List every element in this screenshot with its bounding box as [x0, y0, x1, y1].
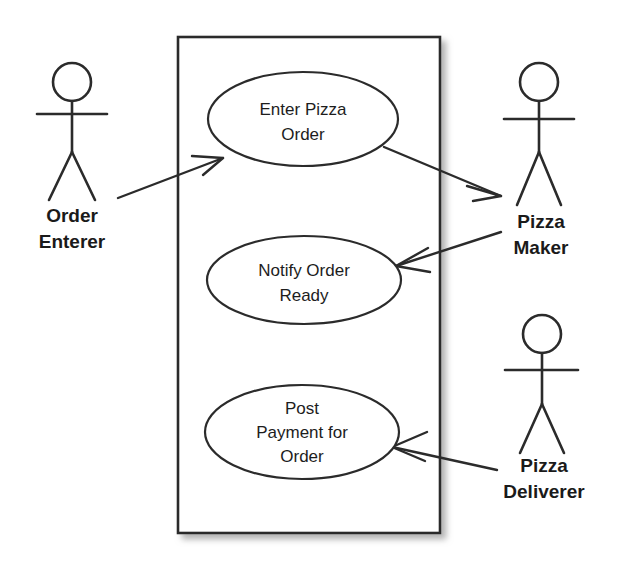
- actor-label-line-1: Pizza: [520, 455, 568, 476]
- actor-left-leg-line: [517, 152, 539, 205]
- actor-right-leg-line: [72, 152, 95, 200]
- use-case-label-line-1: Enter Pizza: [260, 100, 347, 119]
- actor-order-enterer[interactable]: Order Enterer: [37, 63, 107, 252]
- actor-left-leg-line: [49, 152, 72, 200]
- actor-label-line-2: Maker: [514, 237, 570, 258]
- use-case-label-line-2: Payment for: [256, 423, 348, 442]
- use-case-notify-order-ready[interactable]: Notify Order Ready: [207, 236, 401, 324]
- actor-pizza-deliverer[interactable]: Pizza Deliverer: [503, 315, 585, 502]
- use-case-diagram: Order Enterer Pizza Maker Pizza Delivere…: [0, 0, 617, 574]
- use-case-label-line-1: Notify Order: [258, 261, 350, 280]
- uml-canvas: Order Enterer Pizza Maker Pizza Delivere…: [0, 0, 617, 574]
- actor-left-leg-line: [520, 404, 542, 453]
- actor-head-icon: [520, 63, 558, 101]
- use-case-enter-pizza-order[interactable]: Enter Pizza Order: [208, 72, 398, 166]
- use-case-post-payment-for-order[interactable]: Post Payment for Order: [205, 385, 399, 479]
- actor-label-line-2: Deliverer: [503, 481, 585, 502]
- actor-right-leg-line: [539, 152, 561, 205]
- actor-right-leg-line: [542, 404, 564, 453]
- actor-head-icon: [523, 315, 561, 353]
- use-case-label-line-2: Ready: [279, 286, 329, 305]
- use-case-label-line-1: Post: [285, 399, 319, 418]
- actor-pizza-maker[interactable]: Pizza Maker: [504, 63, 574, 258]
- actor-label-line-1: Pizza: [517, 211, 565, 232]
- use-case-label-line-2: Order: [281, 125, 325, 144]
- actor-head-icon: [53, 63, 91, 101]
- actor-label-line-1: Order: [46, 205, 98, 226]
- use-case-label-line-3: Order: [280, 447, 324, 466]
- actor-label-line-2: Enterer: [39, 231, 106, 252]
